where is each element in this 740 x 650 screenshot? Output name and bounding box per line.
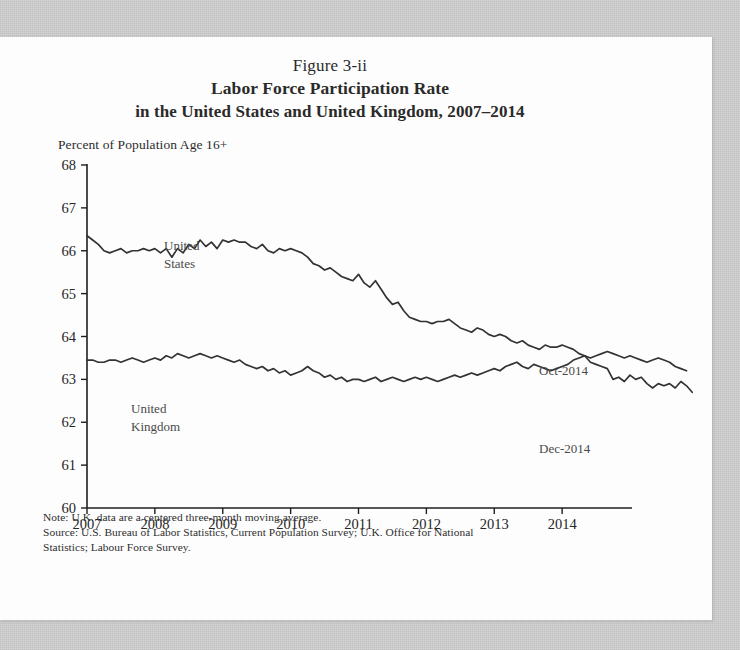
y-tick-label: 61 [62, 457, 77, 473]
uk-series-label-line2: Kingdom [131, 419, 180, 434]
figure-container: Figure 3-ii Labor Force Participation Ra… [0, 37, 712, 620]
y-tick-label: 63 [62, 371, 77, 387]
source-line-2: Statistics; Labour Force Survey. [43, 540, 643, 555]
document-page: Figure 3-ii Labor Force Participation Ra… [0, 37, 712, 620]
series-line-united-kingdom [87, 352, 687, 382]
uk-endpoint-label: Oct-2014 [539, 363, 589, 378]
uk-series-label-line1: United [131, 401, 167, 416]
figure-notes: Note: U.K. data are a centered three-mon… [43, 510, 643, 556]
chart-axes: 6061626364656667682007200820092010201120… [62, 157, 633, 532]
chart-annotations: UnitedStatesUnitedKingdomOct-2014Dec-201… [131, 238, 591, 456]
us-series-label-line2: States [164, 256, 195, 271]
us-series-label-line1: United [164, 238, 200, 253]
y-tick-label: 68 [62, 157, 77, 173]
note-line: Note: U.K. data are a centered three-mon… [43, 510, 643, 525]
y-tick-label: 67 [62, 200, 77, 216]
source-line-1: Source: U.S. Bureau of Labor Statistics,… [43, 525, 643, 540]
us-endpoint-label: Dec-2014 [539, 441, 591, 456]
y-tick-label: 66 [62, 243, 77, 259]
y-tick-label: 65 [62, 286, 77, 302]
y-tick-label: 62 [62, 414, 77, 430]
y-tick-label: 64 [62, 329, 77, 345]
